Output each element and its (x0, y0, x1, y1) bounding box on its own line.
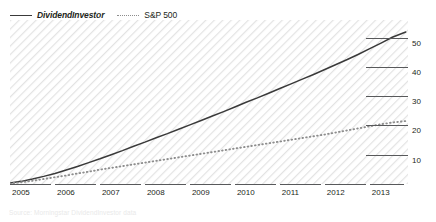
y-axis-label: 30 (412, 97, 421, 106)
y-gridline (366, 125, 408, 126)
series-lines (10, 20, 408, 184)
x-axis-label: 2012 (327, 188, 345, 197)
chart-figure: DividendInvestorS&P 500 1020304050 20052… (0, 0, 436, 222)
x-axis-segment (190, 184, 231, 185)
x-axis-label: 2006 (57, 188, 75, 197)
y-gridline (366, 67, 408, 68)
x-axis-segment (10, 184, 51, 185)
x-axis-label: 2011 (282, 188, 299, 197)
x-axis-segment (370, 184, 404, 185)
y-axis-label: 10 (412, 156, 421, 165)
x-axis-segment (100, 184, 141, 185)
x-axis-segment (325, 184, 366, 185)
y-axis-label: 20 (412, 126, 421, 135)
x-axis-label: 2007 (102, 188, 120, 197)
legend-label: DividendInvestor (37, 11, 104, 20)
x-axis-label: 2010 (237, 188, 255, 197)
legend-swatch-dotted (117, 15, 139, 16)
y-gridline (366, 38, 408, 39)
y-gridline (366, 155, 408, 156)
y-gridline (366, 96, 408, 97)
legend-item: DividendInvestor (10, 11, 104, 20)
y-axis: 1020304050 (366, 20, 436, 184)
plot-area (10, 20, 408, 184)
x-axis-label: 2013 (372, 188, 390, 197)
source-note: Source: Morningstar DividendInvestor dat… (9, 209, 429, 220)
x-axis-segment (145, 184, 186, 185)
x-axis-label: 2005 (12, 188, 30, 197)
series-line-dividendinvestor (10, 32, 406, 183)
legend-item: S&P 500 (117, 11, 177, 20)
legend-label: S&P 500 (144, 11, 177, 20)
x-axis-segment (280, 184, 321, 185)
x-axis-segment (55, 184, 96, 185)
x-axis-label: 2009 (192, 188, 210, 197)
series-line-s-p-500 (10, 121, 406, 183)
x-axis: 200520062007200820092010201120122013 (10, 184, 436, 210)
x-axis-label: 2008 (147, 188, 165, 197)
x-axis-segment (235, 184, 276, 185)
legend-swatch-solid (10, 15, 32, 16)
y-axis-label: 50 (412, 39, 421, 48)
y-axis-label: 40 (412, 68, 421, 77)
